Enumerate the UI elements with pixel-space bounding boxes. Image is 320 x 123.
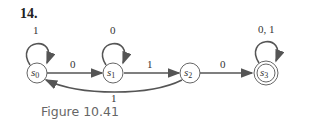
label-loop-s3: 0, 1 — [258, 23, 275, 35]
label-loop-s1: 0 — [110, 24, 116, 36]
figure-caption: Figure 10.41 — [41, 104, 119, 119]
loop-s1 — [102, 44, 124, 65]
label-s2-s0: 1 — [111, 92, 117, 104]
loop-s0 — [26, 44, 48, 65]
label-s1-s2: 1 — [147, 58, 153, 70]
label-s0-s1: 0 — [70, 58, 76, 70]
loop-s3 — [255, 42, 277, 63]
label-loop-s0: 1 — [33, 24, 39, 36]
label-s2-s3: 0 — [220, 58, 226, 70]
